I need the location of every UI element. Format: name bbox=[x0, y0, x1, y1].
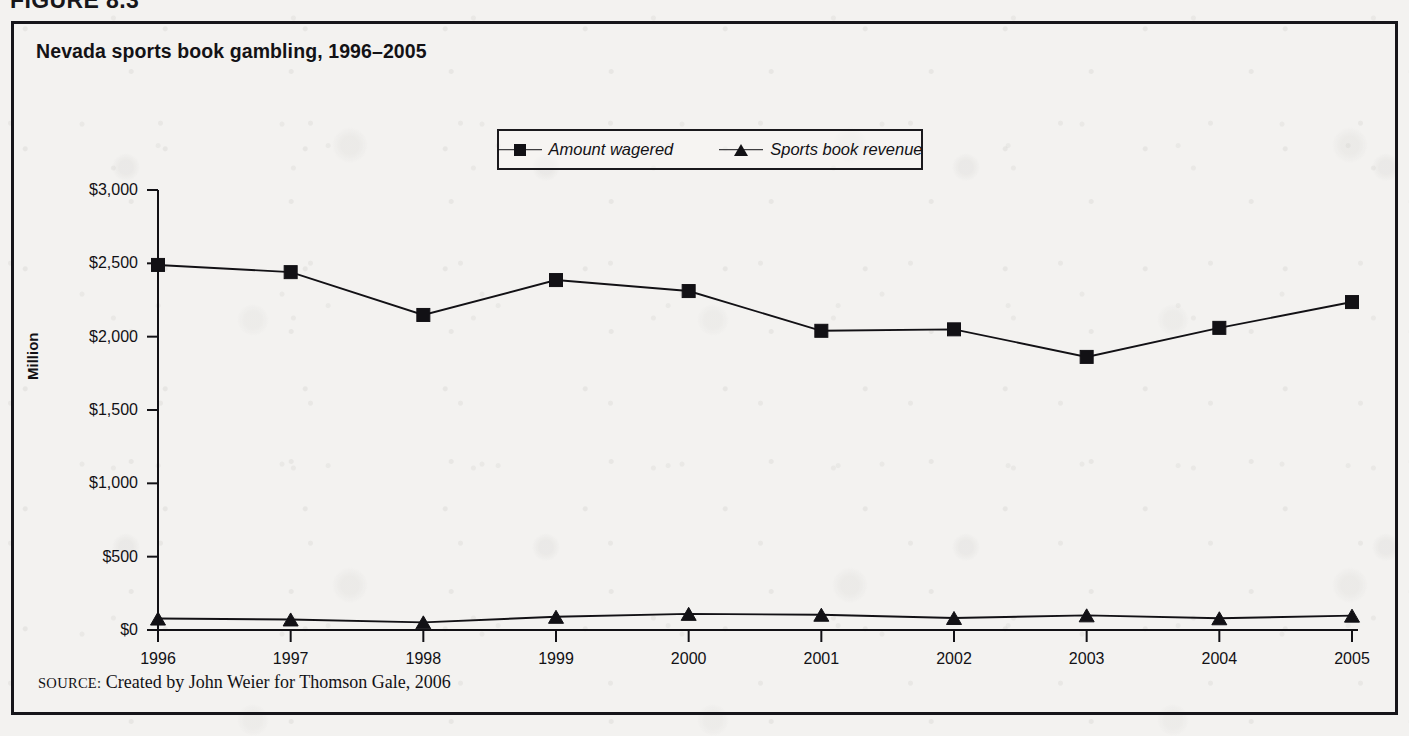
y-axis-tick-label: $2,000 bbox=[0, 328, 138, 346]
source-text: Created by John Weier for Thomson Gale, … bbox=[106, 672, 451, 692]
x-axis-tick-label: 1998 bbox=[406, 650, 442, 668]
y-axis-title: Million bbox=[24, 333, 41, 381]
series-amount-wagered bbox=[152, 258, 1359, 363]
source-prefix: SOURCE: bbox=[38, 675, 101, 691]
x-axis-tick-label: 2004 bbox=[1202, 650, 1238, 668]
y-axis-tick-label: $0 bbox=[0, 621, 138, 639]
x-axis-tick-label: 2000 bbox=[671, 650, 707, 668]
x-axis-tick-label: 2005 bbox=[1334, 650, 1370, 668]
y-axis-tick-label: $3,000 bbox=[0, 181, 138, 199]
y-axis-tick-label: $2,500 bbox=[0, 254, 138, 272]
x-axis-tick-label: 2003 bbox=[1069, 650, 1105, 668]
plot-canvas bbox=[0, 0, 1409, 736]
y-axis-tick-label: $500 bbox=[0, 548, 138, 566]
y-axis-ticks bbox=[147, 190, 158, 630]
y-axis-tick-label: $1,000 bbox=[0, 474, 138, 492]
chart-axes bbox=[158, 190, 1358, 630]
x-axis-tick-label: 2001 bbox=[804, 650, 840, 668]
plot-area: $0$500$1,000$1,500$2,000$2,500$3,000 199… bbox=[0, 0, 1409, 736]
x-axis-tick-label: 1999 bbox=[538, 650, 574, 668]
x-axis-tick-label: 1996 bbox=[140, 650, 176, 668]
source-note: SOURCE: Created by John Weier for Thomso… bbox=[38, 672, 451, 693]
x-axis-tick-label: 2002 bbox=[936, 650, 972, 668]
figure-page: FIGURE 8.3 Nevada sports book gambling, … bbox=[0, 0, 1409, 736]
series-sports-book-revenue bbox=[151, 607, 1360, 629]
x-axis-ticks bbox=[158, 630, 1352, 642]
x-axis-tick-label: 1997 bbox=[273, 650, 309, 668]
y-axis-tick-label: $1,500 bbox=[0, 401, 138, 419]
